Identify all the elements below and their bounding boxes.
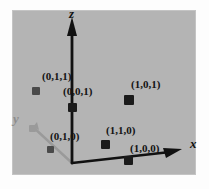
marker-point-010 — [47, 146, 54, 153]
y-axis-label: y — [13, 112, 19, 125]
marker-point-001 — [68, 103, 77, 112]
marker-point-101 — [124, 95, 134, 105]
marker-point-011 — [32, 87, 40, 95]
label-point-010: (0,1,0) — [50, 131, 79, 142]
z-axis-label: z — [69, 7, 74, 20]
x-axis-label: x — [190, 137, 197, 150]
label-point-001: (0,0,1) — [63, 86, 92, 97]
marker-point-100 — [124, 156, 133, 165]
marker-point-y-end — [29, 125, 36, 132]
y-axis — [33, 122, 72, 163]
label-point-101: (1,0,1) — [131, 79, 160, 90]
label-point-110: (1,1,0) — [106, 125, 135, 136]
marker-point-110 — [101, 140, 110, 149]
figure-3d-unit-cube-vertices: z x y (0,1,1) (0,0,1) (1,0,1) (0,1,0) (1… — [0, 0, 209, 189]
label-point-100: (1,0,0) — [130, 143, 159, 154]
label-point-011: (0,1,1) — [42, 71, 71, 82]
